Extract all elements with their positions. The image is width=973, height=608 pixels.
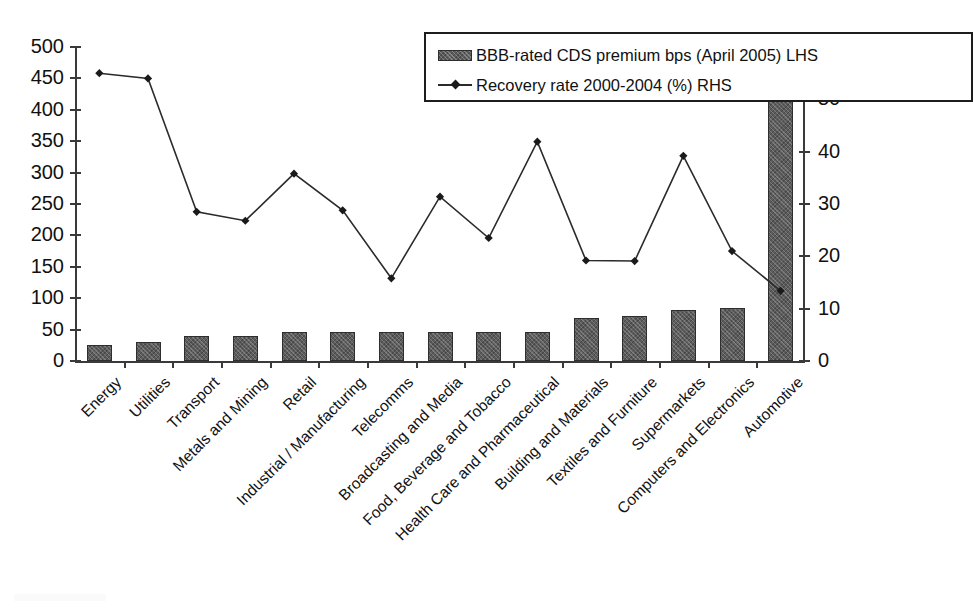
x-axis-category-labels: EnergyUtilitiesTransportMetals and Minin…	[75, 368, 805, 604]
right-axis-tick-label: 30	[818, 193, 840, 213]
left-axis-tick-label: 400	[31, 99, 64, 119]
x-axis-category-label: Metals and Mining	[170, 374, 270, 474]
left-axis-tick-label: 50	[42, 319, 64, 339]
left-axis-tick-label: 450	[31, 67, 64, 87]
left-axis-tick-label: 250	[31, 193, 64, 213]
legend-label-cds-premium: BBB-rated CDS premium bps (April 2005) L…	[476, 46, 818, 64]
legend-entry-line: Recovery rate 2000-2004 (%) RHS	[438, 72, 971, 98]
recovery-rate-polyline	[99, 73, 780, 291]
left-axis-tick-label: 150	[31, 256, 64, 276]
legend: BBB-rated CDS premium bps (April 2005) L…	[424, 32, 973, 102]
line-marker	[679, 152, 687, 160]
legend-label-recovery-rate: Recovery rate 2000-2004 (%) RHS	[476, 76, 732, 94]
line-marker	[533, 138, 541, 146]
line-marker	[582, 256, 590, 264]
line-marker	[95, 69, 103, 77]
right-axis-tick-label: 10	[818, 298, 840, 318]
right-axis-tick-label: 40	[818, 141, 840, 161]
x-axis-category-label: Retail	[280, 374, 319, 413]
x-axis-category-label: Energy	[79, 374, 125, 420]
left-axis-tick-label: 0	[53, 350, 64, 370]
line-marker	[144, 74, 152, 82]
line-marker	[193, 208, 201, 216]
left-axis-tick-label: 500	[31, 36, 64, 56]
left-axis-tick-label: 350	[31, 130, 64, 150]
left-axis-tick-label: 300	[31, 162, 64, 182]
right-axis-tick-label: 20	[818, 245, 840, 265]
right-axis-tick-label: 0	[818, 350, 829, 370]
left-axis-tick-label: 200	[31, 224, 64, 244]
recovery-rate-markers	[95, 69, 785, 295]
line-diamond-icon	[438, 79, 472, 91]
legend-entry-bar: BBB-rated CDS premium bps (April 2005) L…	[438, 42, 971, 68]
line-marker	[631, 257, 639, 265]
scan-artifact	[14, 594, 106, 601]
x-axis-category-label: Utilities	[127, 374, 174, 421]
left-axis-tick-label: 100	[31, 287, 64, 307]
bar-swatch-icon	[438, 50, 472, 61]
